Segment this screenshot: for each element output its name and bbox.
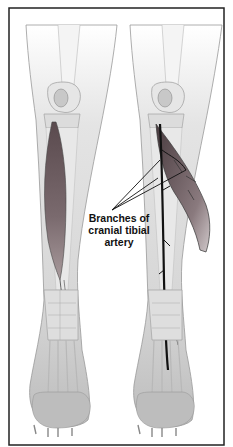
annotation-line-3: artery [84,236,154,248]
annotation-line-2: cranial tibial [84,224,154,236]
annotation-line-1: Branches of [84,212,154,224]
figure: Branches of cranial tibial artery [0,0,233,447]
annotation-label: Branches of cranial tibial artery [84,212,154,248]
